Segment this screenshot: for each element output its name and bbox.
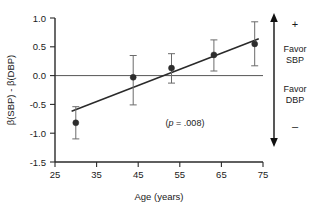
data-point (130, 74, 136, 80)
p-value-annotation: (p = .008) (166, 118, 205, 128)
y-axis-title: β(SBP) - β(DBP) (5, 55, 16, 126)
y-tick-label-4: -0.5 (30, 99, 46, 110)
plot-background (0, 0, 313, 213)
data-point (169, 65, 175, 71)
x-tick-label-6: 75 (258, 169, 269, 180)
plus-sign-label: + (292, 18, 298, 30)
data-point (73, 120, 79, 126)
y-tick-label-3: 0.0 (33, 70, 46, 81)
x-tick-label-5: 65 (216, 169, 227, 180)
figure-container: 1.0 0.5 0.0 -0.5 -1.0 -1.5 25 35 45 55 6… (0, 0, 313, 213)
x-tick-label-1: 25 (50, 169, 61, 180)
favor-dbp-label-line2: DBP (286, 95, 305, 105)
y-tick-label-2: 0.5 (33, 41, 46, 52)
y-tick-label-6: -1.5 (30, 157, 46, 168)
x-tick-label-3: 45 (133, 169, 144, 180)
favor-dbp-label-line1: Favor (283, 84, 306, 94)
x-tick-label-4: 55 (175, 169, 186, 180)
scatter-plot: 1.0 0.5 0.0 -0.5 -1.0 -1.5 25 35 45 55 6… (0, 0, 313, 213)
data-point (252, 41, 258, 47)
favor-sbp-label-line2: SBP (286, 55, 304, 65)
x-axis-title: Age (years) (134, 191, 183, 202)
data-point (211, 52, 217, 58)
x-tick-label-2: 35 (91, 169, 102, 180)
minus-sign-label: – (292, 120, 299, 132)
y-tick-label-1: 1.0 (33, 13, 46, 24)
favor-sbp-label-line1: Favor (283, 44, 306, 54)
y-tick-label-5: -1.0 (30, 128, 46, 139)
